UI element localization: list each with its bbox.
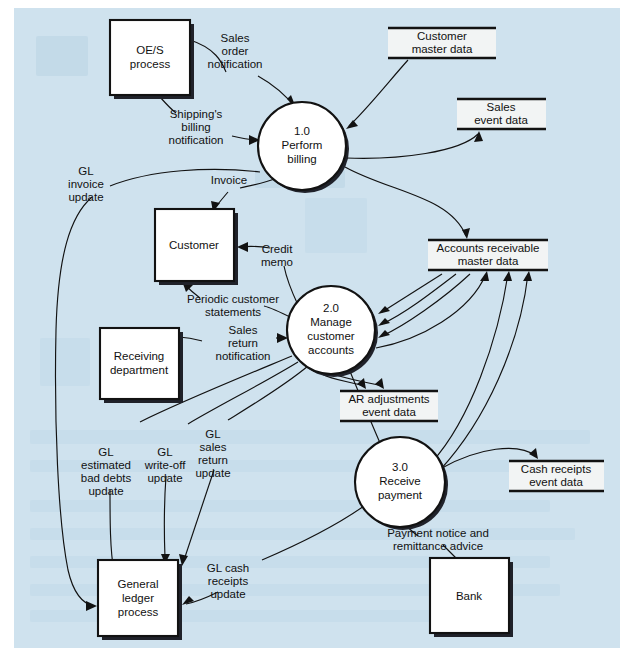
svg-text:GL: GL — [157, 446, 173, 458]
svg-text:Periodic customer: Periodic customer — [187, 293, 279, 305]
svg-text:receipts: receipts — [208, 575, 249, 587]
flow-label-shipping-billing-notification: Shipping's billing notification — [169, 108, 224, 146]
flow-p2-to-ar-master — [376, 274, 486, 348]
data-store-ar-master-line1: Accounts receivable — [437, 242, 540, 254]
data-store-customer-master-line2: master data — [412, 43, 473, 55]
entity-customer[interactable]: Customer — [155, 209, 238, 285]
flow-ar-master-to-p2-2 — [382, 274, 456, 324]
entity-bank[interactable]: Bank — [430, 558, 513, 637]
process-3-number: 3.0 — [392, 461, 408, 473]
process-2-line2: customer — [307, 330, 354, 342]
flow-label-credit-memo: Credit memo — [261, 243, 293, 268]
svg-text:write-off: write-off — [144, 459, 186, 471]
entity-receiving-department[interactable]: Receiving department — [100, 328, 183, 403]
data-store-sales-event-line2: event data — [474, 114, 528, 126]
flow-p1-to-sales-event-data — [346, 134, 478, 158]
svg-text:update: update — [68, 191, 103, 203]
dfd-diagram: Customer master data Sales event data Ac… — [0, 0, 634, 660]
data-store-ar-adjustments[interactable]: AR adjustments event data — [340, 391, 438, 421]
svg-text:return: return — [228, 337, 258, 349]
data-store-ar-master-line2: master data — [458, 255, 519, 267]
svg-text:update: update — [195, 467, 230, 479]
svg-text:notification: notification — [169, 134, 224, 146]
flow-label-payment-notice-remittance-advice: Payment notice and remittance advice — [387, 527, 489, 552]
process-3-line1: Receive — [379, 475, 421, 487]
process-3-line2: payment — [378, 489, 423, 501]
flow-gl-sales-return-update — [228, 366, 308, 420]
data-store-cash-receipts[interactable]: Cash receipts event data — [509, 461, 604, 491]
data-store-cash-receipts-line2: event data — [529, 476, 583, 488]
flow-label-gl-estimated-bad-debts-update: GL estimated bad debts update — [81, 446, 132, 497]
process-1-number: 1.0 — [294, 125, 310, 137]
svg-text:notification: notification — [216, 350, 271, 362]
svg-text:order: order — [222, 45, 249, 57]
flow-label-gl-invoice-update: GL invoice update — [68, 165, 104, 203]
svg-text:Credit: Credit — [262, 243, 293, 255]
process-2-line3: accounts — [308, 344, 354, 356]
entity-customer-label: Customer — [169, 239, 219, 251]
entity-receiving-department-line1: Receiving — [114, 350, 165, 362]
svg-text:GL: GL — [205, 428, 221, 440]
process-2-number: 2.0 — [323, 302, 339, 314]
flow-credit-memo — [284, 266, 298, 305]
svg-text:Shipping's: Shipping's — [170, 108, 223, 120]
svg-text:Sales: Sales — [221, 32, 250, 44]
entity-general-ledger-line3: process — [118, 606, 159, 618]
svg-text:Invoice: Invoice — [211, 174, 247, 186]
svg-text:remittance advice: remittance advice — [393, 540, 483, 552]
entity-general-ledger-line2: ledger — [122, 592, 154, 604]
process-2-manage-customer-accounts[interactable]: 2.0 Manage customer accounts — [287, 286, 378, 377]
svg-text:GL: GL — [78, 165, 94, 177]
svg-text:Sales: Sales — [229, 324, 258, 336]
entity-oes-process-line1: OE/S — [136, 44, 164, 56]
data-store-cash-receipts-line1: Cash receipts — [521, 463, 592, 475]
svg-text:bad debts: bad debts — [81, 472, 132, 484]
entity-oes-process-line2: process — [130, 58, 171, 70]
entity-receiving-department-line2: department — [110, 364, 169, 376]
process-2-line1: Manage — [310, 316, 352, 328]
flow-ar-master-to-p2-3 — [382, 274, 470, 336]
data-store-customer-master-line1: Customer — [417, 30, 467, 42]
entity-oes-process[interactable]: OE/S process — [110, 20, 194, 99]
flow-periodic-statements — [264, 306, 292, 318]
svg-text:statements: statements — [205, 306, 261, 318]
svg-text:invoice: invoice — [68, 178, 104, 190]
svg-text:update: update — [88, 485, 123, 497]
data-store-ar-adjustments-line1: AR adjustments — [348, 393, 429, 405]
svg-text:GL: GL — [98, 446, 114, 458]
data-store-sales-event-line1: Sales — [487, 101, 516, 113]
entity-general-ledger-process[interactable]: General ledger process — [98, 560, 182, 640]
svg-text:update: update — [210, 588, 245, 600]
flow-label-periodic-customer-statements: Periodic customer statements — [187, 293, 279, 318]
svg-text:sales: sales — [200, 441, 227, 453]
flow-customer-master-to-p1 — [349, 60, 408, 126]
svg-text:memo: memo — [261, 256, 293, 268]
svg-text:notification: notification — [208, 58, 263, 70]
svg-text:update: update — [147, 472, 182, 484]
process-1-line2: billing — [287, 153, 316, 165]
svg-text:billing: billing — [181, 121, 210, 133]
entity-bank-label: Bank — [456, 590, 482, 602]
flow-label-invoice: Invoice — [211, 174, 247, 186]
data-store-customer-master[interactable]: Customer master data — [388, 28, 496, 58]
flow-label-sales-order-notification: Sales order notification — [208, 32, 263, 70]
dfd-page: Customer master data Sales event data Ac… — [0, 0, 634, 660]
svg-text:Payment notice and: Payment notice and — [387, 527, 489, 539]
flow-label-gl-cash-receipts-update: GL cash receipts update — [207, 562, 249, 600]
data-store-ar-adjustments-line2: event data — [362, 406, 416, 418]
flow-label-gl-write-off-update: GL write-off update — [144, 446, 186, 484]
entity-general-ledger-line1: General — [118, 578, 159, 590]
data-store-ar-master[interactable]: Accounts receivable master data — [428, 240, 548, 270]
svg-text:estimated: estimated — [81, 459, 131, 471]
process-3-receive-payment[interactable]: 3.0 Receive payment — [355, 437, 448, 530]
process-1-line1: Perform — [282, 139, 323, 151]
data-store-sales-event[interactable]: Sales event data — [457, 99, 546, 129]
svg-text:return: return — [198, 454, 228, 466]
flow-label-sales-return-notification: Sales return notification — [216, 324, 271, 362]
svg-text:GL cash: GL cash — [207, 562, 249, 574]
